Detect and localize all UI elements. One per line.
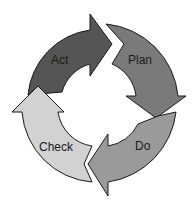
check-label: Check: [39, 140, 74, 154]
plan-arrow: [106, 24, 186, 118]
do-arrow: [88, 112, 176, 196]
do-label: Do: [135, 139, 151, 153]
act-arrow: [28, 14, 112, 95]
act-label: Act: [51, 53, 69, 67]
check-arrow: [12, 86, 92, 182]
pdca-cycle-diagram: Act Plan Do Check: [0, 0, 195, 211]
plan-label: Plan: [128, 53, 152, 67]
